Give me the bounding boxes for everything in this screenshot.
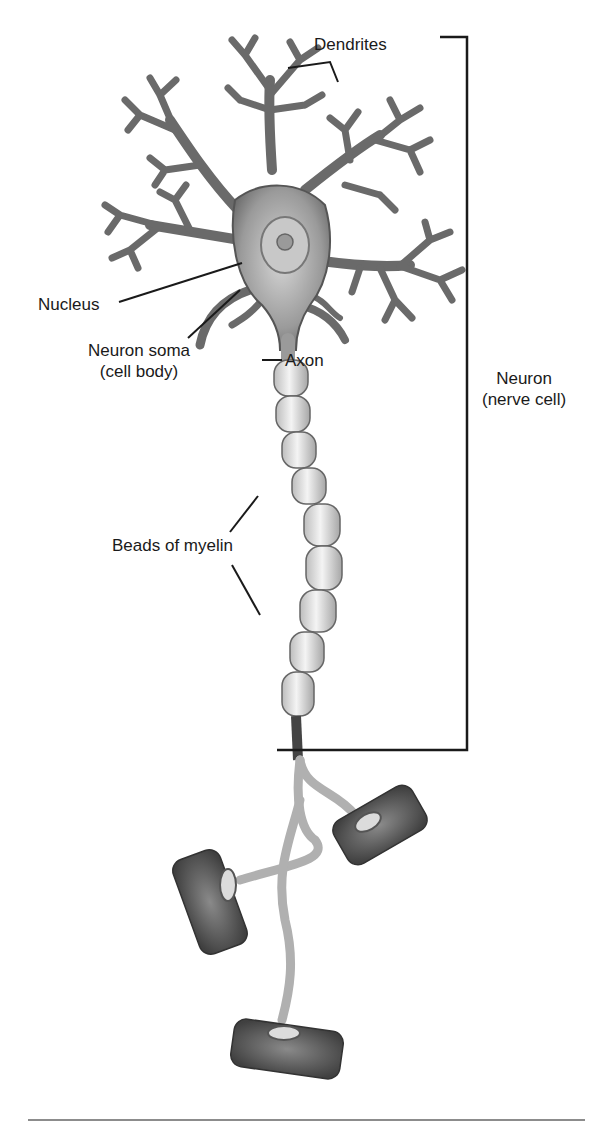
myelin-beads <box>274 360 342 716</box>
label-axon: Axon <box>285 350 324 371</box>
label-soma: Neuron soma (cell body) <box>88 340 190 382</box>
label-dendrites: Dendrites <box>314 34 387 55</box>
terminal-right <box>329 781 432 869</box>
axon-terminals <box>240 760 355 1020</box>
label-soma-line1: Neuron soma <box>88 340 190 361</box>
label-neuron-line2: (nerve cell) <box>482 389 566 410</box>
terminal-left <box>169 846 250 957</box>
label-neuron: Neuron (nerve cell) <box>482 368 566 410</box>
label-neuron-line1: Neuron <box>482 368 566 389</box>
neuron-diagram <box>0 0 613 1130</box>
label-nucleus: Nucleus <box>38 294 99 315</box>
label-soma-line2: (cell body) <box>88 361 190 382</box>
label-myelin: Beads of myelin <box>112 535 233 556</box>
